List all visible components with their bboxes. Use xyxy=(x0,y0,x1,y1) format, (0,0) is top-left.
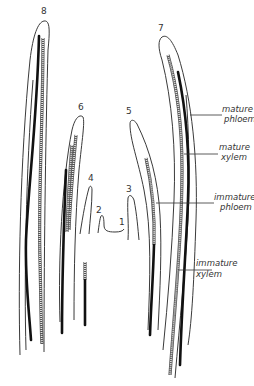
annotation-mature-phloem: mature phloem xyxy=(190,104,254,124)
label-mature-phloem-2: phloem xyxy=(223,114,254,124)
leaf-8: 8 xyxy=(19,6,49,355)
annotation-immature-xylem: immature xylem xyxy=(178,258,238,279)
label-mature-xylem-2: xylem xyxy=(220,152,247,162)
label-mature-phloem-1: mature xyxy=(222,104,253,114)
leaf-number-1: 1 xyxy=(119,217,125,227)
leaf-number-8: 8 xyxy=(41,6,47,16)
label-mature-xylem-1: mature xyxy=(219,142,250,152)
label-immature-xylem-1: immature xyxy=(196,258,238,268)
leaf-5: 5 xyxy=(126,106,161,335)
leaf-number-6: 6 xyxy=(78,102,84,112)
leaf-6: 6 xyxy=(60,102,85,333)
leaf-number-4: 4 xyxy=(88,173,94,183)
leaf-number-3: 3 xyxy=(126,184,132,194)
label-immature-xylem-2: xylem xyxy=(195,269,222,279)
leaf-4: 4 xyxy=(80,173,94,234)
annotation-immature-phloem: immature phloem xyxy=(156,192,254,212)
leaf-number-5: 5 xyxy=(126,106,132,116)
leaf-2-and-1: 2 1 xyxy=(96,205,125,233)
leaf-number-2: 2 xyxy=(96,205,102,215)
leaf-7: 7 xyxy=(158,23,196,378)
leaf-number-7: 7 xyxy=(158,23,164,33)
label-immature-phloem-2: phloem xyxy=(219,202,252,212)
leaf-primordia-diagram: 8 6 4 2 1 3 5 xyxy=(0,0,254,386)
leaf-3: 3 xyxy=(126,184,139,240)
label-immature-phloem-1: immature xyxy=(214,192,254,202)
